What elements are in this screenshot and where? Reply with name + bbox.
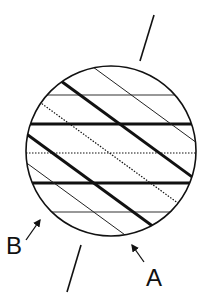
circle-interior-lines [15,58,210,290]
axis-line-bottom [67,245,81,292]
label-b: B [6,232,22,259]
arrow-a [132,245,144,262]
diagram-canvas: A B [0,0,210,303]
diagonal-line-thick-1 [50,73,210,190]
label-a: A [146,264,162,291]
diagonal-line-thin-2 [15,155,200,290]
diagonal-line-thick-2 [15,126,200,261]
diagonal-line-thin-1 [80,58,210,153]
arrow-b [26,220,40,240]
axis-line-top [140,15,154,61]
diagonal-line-dotted [20,88,210,227]
